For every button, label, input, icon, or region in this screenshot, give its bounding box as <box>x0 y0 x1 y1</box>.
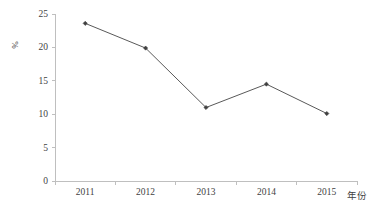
x-axis-tick-labels: 20112012201320142015 <box>55 186 357 200</box>
x-tick-label: 2014 <box>236 186 296 198</box>
y-tick-label: 5 <box>24 143 48 153</box>
line-chart: % 年份 0510152025 20112012201320142015 <box>0 0 381 212</box>
x-tick-label: 2015 <box>297 186 357 198</box>
x-tick-label: 2011 <box>55 186 115 198</box>
y-tick-label: 25 <box>24 9 48 19</box>
y-tick-label: 20 <box>24 42 48 52</box>
data-series <box>85 23 327 113</box>
data-markers <box>83 21 329 115</box>
y-axis-tick-labels: 0510152025 <box>20 14 48 181</box>
axis-ticks <box>52 14 358 185</box>
x-tick-label: 2013 <box>176 186 236 198</box>
y-tick-label: 0 <box>24 176 48 186</box>
axis-lines <box>55 14 357 181</box>
chart-canvas <box>0 0 381 212</box>
y-tick-label: 15 <box>24 76 48 86</box>
x-tick-label: 2012 <box>116 186 176 198</box>
y-tick-label: 10 <box>24 109 48 119</box>
